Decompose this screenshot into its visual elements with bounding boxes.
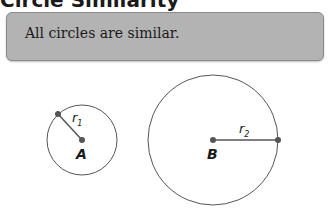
circle-b-group: r2 B [148, 75, 281, 205]
center-point-b [210, 137, 216, 143]
center-label-a: A [75, 146, 87, 162]
center-label-b: B [207, 146, 218, 162]
edge-point-b [275, 137, 281, 143]
radius-b-label: r2 [239, 121, 249, 139]
center-point-a [79, 137, 85, 143]
circle-diagram: r1 A r2 B [0, 0, 333, 223]
circle-a-group: r1 A [47, 105, 117, 175]
edge-point-a [55, 111, 61, 117]
radius-a-label: r1 [72, 110, 82, 128]
